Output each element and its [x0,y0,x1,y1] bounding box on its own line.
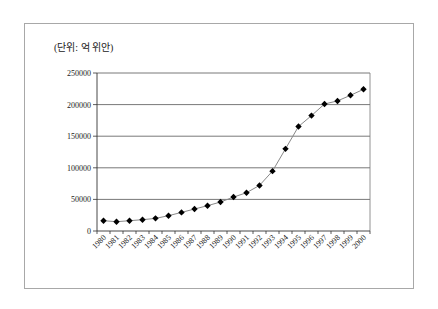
data-point-marker [100,217,106,223]
data-point-marker [126,217,132,223]
data-point-marker [204,203,210,209]
line-chart: 0500001000001500002000002500001980198119… [0,0,438,309]
y-tick-label: 250000 [67,69,91,78]
data-point-marker [152,215,158,221]
data-point-marker [334,98,340,104]
series-line [104,89,364,221]
x-tick-label: 2000 [350,233,368,251]
data-point-marker [113,219,119,225]
y-tick-label: 50000 [71,195,91,204]
data-point-marker [139,216,145,222]
data-point-marker [360,86,366,92]
y-tick-label: 150000 [67,132,91,141]
data-point-marker [282,146,288,152]
data-point-marker [191,206,197,212]
data-point-marker [165,213,171,219]
data-point-marker [347,92,353,98]
data-point-marker [243,190,249,196]
y-tick-label: 200000 [67,101,91,110]
data-point-marker [178,209,184,215]
y-tick-label: 0 [87,227,91,236]
y-tick-label: 100000 [67,164,91,173]
